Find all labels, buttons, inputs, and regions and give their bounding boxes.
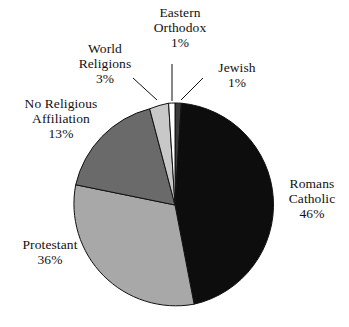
pie-label-no-religious-affiliation-line2: Affiliation xyxy=(2,111,120,126)
pie-label-eastern-orthodox-line1: Eastern xyxy=(132,5,228,20)
pie-label-no-religious-affiliation-line1: No Religious xyxy=(2,96,120,111)
pie-label-romans-catholic: Romans Catholic 46% xyxy=(276,176,348,221)
pie-label-romans-catholic-percent: 46% xyxy=(276,206,348,221)
pie-label-world-religions-line2: Religions xyxy=(62,56,148,71)
pie-label-jewish-percent: 1% xyxy=(200,75,274,90)
pie-label-protestant-line1: Protestant xyxy=(0,237,100,252)
pie-label-protestant: Protestant 36% xyxy=(0,237,100,267)
pie-label-protestant-percent: 36% xyxy=(0,252,100,267)
pie-label-no-religious-affiliation: No Religious Affiliation 13% xyxy=(2,96,120,141)
pie-chart-figure: Eastern Orthodox 1% World Religions 3% J… xyxy=(0,0,349,327)
pie-label-jewish: Jewish 1% xyxy=(200,60,274,90)
pie-label-world-religions: World Religions 3% xyxy=(62,41,148,86)
pie-label-world-religions-line1: World xyxy=(62,41,148,56)
pie-label-eastern-orthodox-line2: Orthodox xyxy=(132,20,228,35)
pie-label-jewish-line1: Jewish xyxy=(200,60,274,75)
pie-label-world-religions-percent: 3% xyxy=(62,71,148,86)
pie-slice-romans-catholic[interactable] xyxy=(175,103,274,304)
pie-label-romans-catholic-line1: Romans xyxy=(276,176,348,191)
pie-label-no-religious-affiliation-percent: 13% xyxy=(2,126,120,141)
pie-label-romans-catholic-line2: Catholic xyxy=(276,191,348,206)
